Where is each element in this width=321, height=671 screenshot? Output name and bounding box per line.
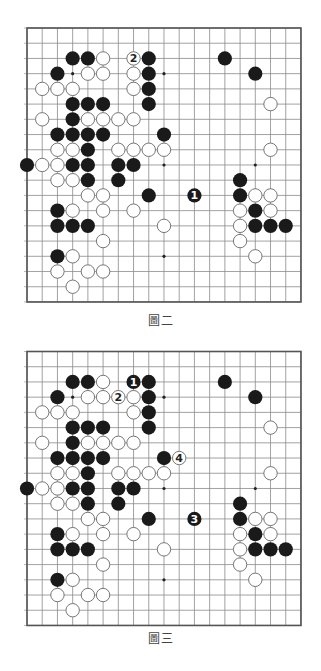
move-number: 2: [130, 52, 138, 65]
star-point: [254, 163, 257, 166]
black-stone: [233, 512, 247, 526]
black-stone: [81, 51, 95, 65]
black-stone: [66, 542, 80, 556]
white-stone: [81, 113, 94, 126]
white-stone: [66, 174, 79, 187]
white-stone: [81, 436, 94, 449]
white-stone: [127, 143, 140, 156]
white-stone: [51, 406, 64, 419]
white-stone: [157, 143, 170, 156]
white-stone: [96, 527, 109, 540]
black-stone: [50, 527, 64, 541]
white-stone: [127, 467, 140, 480]
black-stone: [66, 451, 80, 465]
black-stone: [96, 421, 110, 435]
go-board-figure-2: 12 圖二: [0, 0, 321, 340]
white-stone: [127, 113, 140, 126]
black-stone: [81, 451, 95, 465]
black-stone: [50, 542, 64, 556]
white-stone: [157, 543, 170, 556]
star-point: [162, 163, 165, 166]
black-stone: [50, 67, 64, 81]
white-stone: [127, 390, 140, 403]
black-stone: [66, 481, 80, 495]
go-board-figure-3: 1234 圖三: [0, 323, 321, 671]
go-board-diagram: 1234: [0, 323, 321, 633]
black-stone: [142, 97, 156, 111]
black-stone: [81, 173, 95, 187]
numbered-black-stone: 1: [187, 188, 201, 202]
white-stone: [112, 436, 125, 449]
black-stone: [157, 127, 171, 141]
star-point: [71, 72, 74, 75]
star-point: [254, 487, 257, 490]
black-stone: [218, 51, 232, 65]
black-stone: [96, 127, 110, 141]
black-stone: [66, 219, 80, 233]
black-stone: [81, 158, 95, 172]
white-stone: [81, 588, 94, 601]
numbered-white-stone: 2: [112, 390, 125, 404]
black-stone: [233, 497, 247, 511]
white-stone: [66, 143, 79, 156]
black-stone: [81, 127, 95, 141]
black-stone: [142, 375, 156, 389]
white-stone: [66, 406, 79, 419]
white-stone: [51, 497, 64, 510]
black-stone: [20, 481, 34, 495]
white-stone: [81, 265, 94, 278]
black-stone: [142, 51, 156, 65]
black-stone: [142, 82, 156, 96]
black-stone: [66, 127, 80, 141]
black-stone: [81, 375, 95, 389]
black-stone: [50, 573, 64, 587]
black-stone: [279, 219, 293, 233]
white-stone: [51, 143, 64, 156]
white-stone: [81, 67, 94, 80]
white-stone: [66, 250, 79, 263]
white-stone: [157, 467, 170, 480]
white-stone: [249, 189, 262, 202]
white-stone: [127, 204, 140, 217]
white-stone: [66, 573, 79, 586]
white-stone: [264, 97, 277, 110]
black-stone: [111, 497, 125, 511]
white-stone: [127, 406, 140, 419]
star-point: [162, 487, 165, 490]
white-stone: [96, 265, 109, 278]
white-stone: [36, 82, 49, 95]
black-stone: [81, 143, 95, 157]
white-stone: [96, 234, 109, 247]
black-stone: [111, 481, 125, 495]
white-stone: [264, 421, 277, 434]
black-stone: [233, 188, 247, 202]
black-stone: [248, 542, 262, 556]
black-stone: [142, 390, 156, 404]
black-stone: [81, 421, 95, 435]
move-number: 4: [175, 452, 183, 465]
numbered-black-stone: 3: [187, 512, 201, 526]
white-stone: [36, 436, 49, 449]
star-point: [162, 578, 165, 581]
black-stone: [66, 97, 80, 111]
white-stone: [96, 52, 109, 65]
black-stone: [111, 173, 125, 187]
white-stone: [66, 204, 79, 217]
white-stone: [96, 436, 109, 449]
white-stone: [233, 204, 246, 217]
black-stone: [66, 421, 80, 435]
black-stone: [142, 67, 156, 81]
white-stone: [81, 512, 94, 525]
white-stone: [36, 406, 49, 419]
white-stone: [112, 143, 125, 156]
white-stone: [96, 113, 109, 126]
white-stone: [127, 82, 140, 95]
white-stone: [264, 204, 277, 217]
black-stone: [66, 158, 80, 172]
white-stone: [233, 527, 246, 540]
black-stone: [81, 497, 95, 511]
white-stone: [51, 265, 64, 278]
numbered-white-stone: 4: [173, 451, 186, 465]
black-stone: [66, 112, 80, 126]
black-stone: [142, 188, 156, 202]
